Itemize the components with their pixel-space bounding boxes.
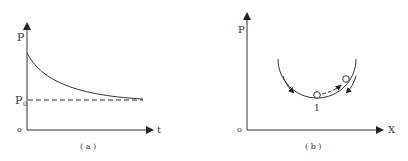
baseline-label: P [15,94,23,107]
y-axis-label: P [238,24,245,35]
panel-a: P t o P 0 ( a ) [15,24,161,151]
figure: P t o P 0 ( a ) 1 P X o ( b ) [0,0,408,161]
x-axis-label: t [157,124,161,135]
caption-a: ( a ) [80,142,96,151]
caption-b: ( b ) [305,142,321,151]
origin-label: o [237,125,242,134]
origin-label: o [17,125,22,134]
y-axis-label: P [17,31,25,44]
decay-curve [27,53,143,99]
x-axis-label: X [388,124,396,135]
panel-b: 1 P X o ( b ) [237,14,396,151]
ball-bottom [314,92,321,99]
ball-slope [343,76,350,83]
left-motion-arrow [283,76,293,92]
baseline-subscript: 0 [23,100,27,107]
point-label: 1 [314,103,320,113]
